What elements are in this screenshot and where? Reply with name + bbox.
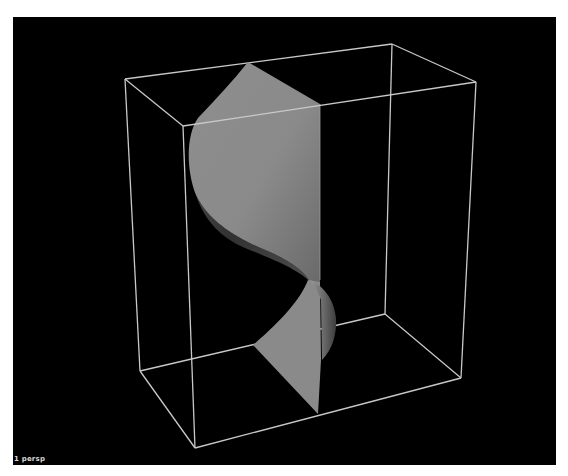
box-edge	[195, 378, 461, 448]
twisted-surface[interactable]	[189, 62, 336, 414]
surface-lower-sheet	[253, 280, 321, 414]
box-edge	[140, 371, 195, 448]
box-edge	[385, 314, 461, 378]
box-edge	[385, 44, 392, 314]
box-edge	[461, 82, 476, 378]
scene-canvas[interactable]	[0, 0, 568, 476]
box-edge	[125, 79, 140, 371]
camera-label: 1 persp	[14, 455, 45, 463]
box-edge	[392, 44, 476, 82]
box-edge	[125, 79, 183, 126]
